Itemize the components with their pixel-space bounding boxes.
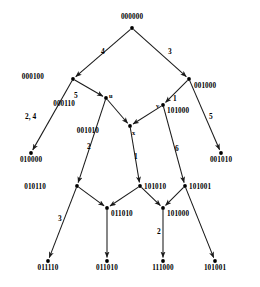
- node-label: 111000: [152, 265, 173, 272]
- graph-node: [161, 103, 165, 107]
- edge-weight-label: 5: [209, 113, 213, 120]
- node-label: 000000: [121, 14, 143, 21]
- node-label: 101001: [204, 265, 226, 272]
- node-label: 101001: [189, 184, 211, 191]
- graph-edge: [79, 187, 104, 206]
- edge-weight-label: 3: [168, 48, 172, 55]
- graph-node: [161, 206, 165, 210]
- graph-node: [29, 151, 33, 155]
- graph-node: [187, 77, 191, 81]
- edge-weight-label: 6: [175, 145, 179, 152]
- graph-edge: [49, 188, 76, 258]
- graph-edge: [33, 81, 72, 150]
- edge-layer: [33, 29, 220, 257]
- graph-node: [130, 26, 134, 30]
- graph-node: [138, 184, 142, 188]
- node-label: 010110: [24, 184, 46, 191]
- edge-weight-label: 5: [74, 92, 78, 99]
- node-label: 101010: [144, 184, 166, 191]
- edge-weight-label: 2: [87, 143, 91, 150]
- node-layer: [29, 26, 223, 263]
- graph-edge: [190, 81, 220, 150]
- graph-node: [213, 259, 217, 263]
- graph-node: [71, 77, 75, 81]
- graph-node: [105, 259, 109, 263]
- graph-svg: [0, 0, 260, 287]
- edge-weight-label: 3: [58, 215, 62, 222]
- graph-edge: [78, 100, 105, 183]
- vertex-name-x: x: [132, 130, 135, 136]
- graph-node: [46, 259, 50, 263]
- graph-edge: [75, 80, 103, 96]
- graph-node: [183, 184, 187, 188]
- node-label: 001000: [194, 83, 216, 90]
- node-label: 101000: [167, 108, 189, 115]
- node-label: 001010: [210, 157, 232, 164]
- graph-node: [161, 259, 165, 263]
- edge-weight-label: 2, 4: [25, 113, 36, 120]
- node-label: 101000: [167, 211, 189, 218]
- graph-node: [128, 124, 132, 128]
- node-label: 011010: [96, 265, 118, 272]
- graph-edge: [166, 187, 184, 205]
- graph-node: [105, 206, 109, 210]
- graph-node: [104, 96, 108, 100]
- edge-weight-label: 4: [101, 48, 105, 55]
- graph-node: [219, 151, 223, 155]
- node-label: 011110: [38, 265, 59, 272]
- node-label: 011010: [111, 211, 133, 218]
- graph-node: [75, 184, 79, 188]
- diagram-canvas: 0000000001000010000001101010000100000010…: [0, 0, 260, 287]
- node-label: 010000: [20, 157, 42, 164]
- graph-edge: [107, 100, 127, 124]
- edge-weight-label: 1: [173, 95, 177, 102]
- graph-edge: [110, 187, 138, 206]
- graph-edge: [164, 107, 185, 183]
- node-label: 000110: [53, 101, 75, 108]
- vertex-name-u: u: [109, 93, 113, 99]
- graph-edge: [133, 29, 186, 76]
- edge-weight-label: 1: [134, 153, 138, 160]
- vertex-name-v: v: [156, 103, 159, 109]
- graph-edge: [186, 188, 214, 258]
- node-label: 000100: [22, 74, 44, 81]
- edge-weight-label: 2: [157, 228, 161, 235]
- node-label: 001010: [77, 128, 99, 135]
